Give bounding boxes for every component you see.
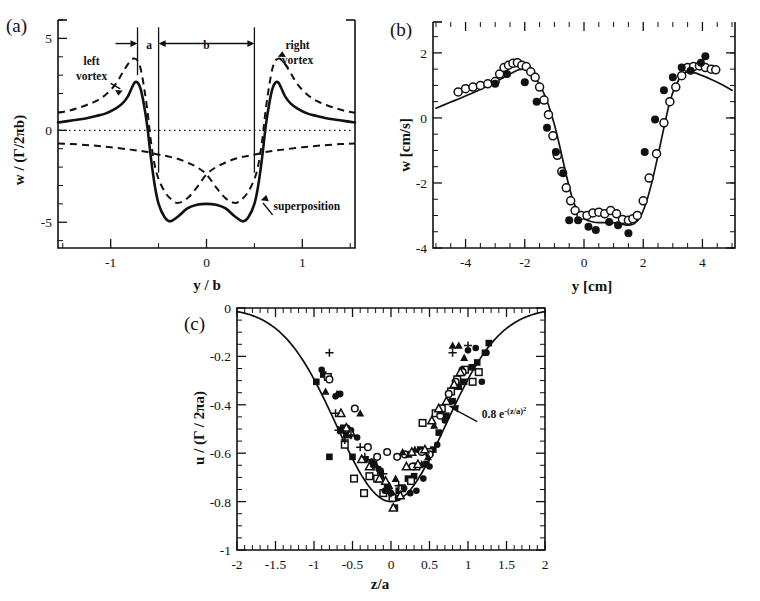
panel-c-axes: 0-0.2-0.4-0.6-0.8-1-2-1.5-1-0.500.511.52 [210,301,549,572]
svg-text:2: 2 [542,557,549,572]
svg-text:superposition: superposition [274,200,341,213]
svg-text:-1: -1 [105,255,116,270]
panel-a-xlabel: y / b [193,277,221,293]
svg-text:b: b [203,39,209,51]
panel-c-ylabel: u / (Γ / 2πa) [191,391,208,465]
svg-text:2: 2 [420,46,427,61]
panel-c-datapoints [313,340,492,511]
svg-text:right: right [285,39,309,52]
svg-text:-4: -4 [460,255,471,270]
svg-text:0: 0 [45,123,52,138]
svg-text:-2: -2 [519,255,530,270]
svg-text:4: 4 [699,255,706,270]
svg-text:0.5: 0.5 [421,557,438,572]
panel-c: (c) 0-0.2-0.4-0.6-0.8-1-2-1.5-1-0.500.51… [180,300,760,601]
panel-b-xlabel: y [cm] [572,278,612,294]
panel-c-curves [237,312,545,502]
svg-text:1.5: 1.5 [498,557,515,572]
svg-text:2: 2 [640,255,647,270]
panel-a: (a) 50-5-101 ableftvortexrightvortexsupe… [0,0,380,300]
svg-text:-0.4: -0.4 [210,398,232,413]
svg-text:0: 0 [420,111,427,126]
svg-text:0: 0 [203,255,210,270]
svg-text:1: 1 [465,557,472,572]
panel-c-letter: (c) [184,313,205,335]
panel-b-letter: (b) [390,19,412,41]
panel-c-annotations: 0.8 e-(z/a)2 [448,405,526,422]
svg-text:0: 0 [388,557,395,572]
svg-text:1: 1 [299,255,306,270]
panel-c-svg: (c) 0-0.2-0.4-0.6-0.8-1-2-1.5-1-0.500.51… [180,300,760,601]
svg-text:0.8 e-(z/a)2: 0.8 e-(z/a)2 [482,405,527,420]
panel-a-curves [58,59,355,222]
panel-a-letter: (a) [6,15,27,37]
panel-b-axes: 20-2-4-4-2024 [416,22,735,270]
panel-b: (b) 20-2-4-4-2024 w [cm/s] y [cm] [380,0,760,300]
panel-b-datapoints [454,52,720,237]
svg-text:a: a [146,39,152,51]
svg-text:5: 5 [45,31,52,46]
panel-c-xlabel: z/a [371,576,390,592]
svg-text:vortex: vortex [76,70,108,82]
figure-container: (a) 50-5-101 ableftvortexrightvortexsupe… [0,0,760,601]
svg-text:vortex: vortex [282,54,314,66]
svg-text:0: 0 [224,301,231,316]
panel-a-annotations: ableftvortexrightvortexsuperposition [76,27,341,215]
svg-text:left: left [84,55,100,67]
panel-a-svg: (a) 50-5-101 ableftvortexrightvortexsupe… [0,0,380,300]
svg-text:-1: -1 [308,557,319,572]
svg-text:-4: -4 [416,241,427,256]
svg-text:-1: -1 [220,543,231,558]
panel-b-curves [436,69,732,225]
panel-a-ylabel: w / (Γ/2πb) [11,115,28,185]
svg-text:0: 0 [581,255,588,270]
svg-text:-2: -2 [416,176,427,191]
svg-text:-0.8: -0.8 [210,495,232,510]
panel-b-ylabel: w [cm/s] [397,118,413,172]
svg-text:-0.2: -0.2 [210,349,231,364]
svg-text:-0.6: -0.6 [210,446,232,461]
svg-text:-0.5: -0.5 [342,557,364,572]
svg-text:-5: -5 [41,215,52,230]
svg-text:-1.5: -1.5 [265,557,287,572]
panel-b-svg: (b) 20-2-4-4-2024 w [cm/s] y [cm] [380,0,760,300]
svg-text:-2: -2 [231,557,242,572]
